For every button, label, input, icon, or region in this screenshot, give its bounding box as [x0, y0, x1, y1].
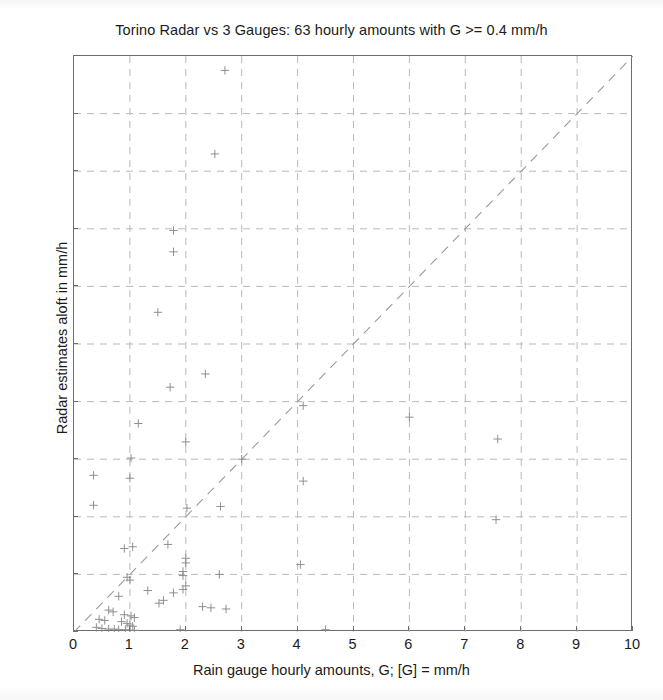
y-tick-mark: [73, 170, 78, 171]
scatter-plot-figure: Torino Radar vs 3 Gauges: 63 hourly amou…: [0, 0, 663, 700]
y-tick-mark: [73, 55, 78, 56]
x-tick-mark: [129, 626, 130, 631]
y-tick-mark: [73, 113, 78, 114]
y-tick-mark: [73, 285, 78, 286]
y-tick-mark: [73, 343, 78, 344]
y-axis-label: Radar estimates aloft in mm/h: [54, 198, 70, 478]
y-tick-mark: [73, 573, 78, 574]
y-axis-tick-labels: 012345678910: [0, 0, 663, 700]
x-tick-mark: [408, 626, 409, 631]
x-tick-mark: [632, 626, 633, 631]
y-tick-mark: [73, 516, 78, 517]
x-tick-mark: [297, 626, 298, 631]
x-tick-mark: [464, 626, 465, 631]
y-tick-mark: [73, 228, 78, 229]
y-tick-mark: [73, 458, 78, 459]
x-tick-mark: [185, 626, 186, 631]
x-tick-mark: [520, 626, 521, 631]
y-tick-mark: [73, 401, 78, 402]
x-tick-mark: [353, 626, 354, 631]
y-tick-mark: [73, 631, 78, 632]
x-tick-mark: [576, 626, 577, 631]
x-axis-label: Rain gauge hourly amounts, G; [G] = mm/h: [0, 662, 663, 678]
x-tick-mark: [241, 626, 242, 631]
